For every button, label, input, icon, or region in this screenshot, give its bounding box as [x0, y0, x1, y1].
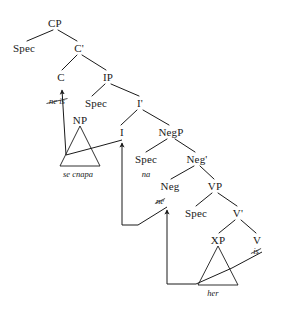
- tree-node-Ibar: I': [137, 98, 143, 109]
- NP-triangle: [60, 126, 100, 166]
- tree-branch-Vbar-XP: [219, 220, 235, 233]
- lexical-item-se-cnapa: se cnapa: [63, 170, 93, 179]
- lexical-item-na: na: [142, 170, 151, 179]
- tree-node-C: C: [57, 72, 65, 83]
- tree-node-Neg: Neg: [161, 181, 180, 192]
- tree-branch-IP-Ibar: [111, 84, 139, 96]
- lexical-item-her: her: [207, 289, 218, 298]
- tree-branch-IP-SpecIP: [92, 84, 105, 96]
- tree-branch-VP-Vbar: [218, 193, 237, 206]
- tree-node-SpecVP: Spec: [185, 208, 207, 219]
- tree-node-SpecIP: Spec: [85, 98, 107, 109]
- tree-branch-Negbar-VP: [200, 166, 214, 179]
- tree-node-Cbar: C': [74, 43, 84, 54]
- XP-triangle: [198, 246, 238, 285]
- tree-node-SpecCP: Spec: [13, 43, 35, 54]
- tree-node-NegP: NegP: [158, 127, 183, 138]
- tree-node-VP: VP: [208, 181, 222, 192]
- tree-node-V: V: [253, 235, 261, 246]
- tree-branch-Cbar-C: [62, 55, 77, 70]
- tree-branch-Vbar-V: [241, 220, 256, 233]
- tree-branch-VP-SpecVP: [196, 193, 212, 206]
- tree-node-Vbar: V': [233, 208, 243, 219]
- lexical-item-ne-is: ne is: [49, 97, 65, 106]
- tree-node-I: I: [120, 127, 124, 138]
- syntax-tree-figure: CPSpecC'CIPSpecI'NPINegPSpecNeg'NegVPSpe…: [0, 0, 281, 312]
- tree-branch-Cbar-IP: [82, 55, 106, 70]
- tree-branch-NegP-Negbar: [175, 139, 195, 152]
- tree-node-SpecNegP: Spec: [135, 154, 157, 165]
- tree-node-XP: XP: [211, 235, 225, 246]
- movement-arrow-V-to-Neg: [167, 210, 262, 284]
- tree-node-IP: IP: [103, 72, 113, 83]
- tree-branch-NegP-SpecNegP: [146, 139, 167, 152]
- branch-layer: [27, 30, 256, 233]
- tree-branch-CP-SpecCP: [27, 30, 53, 41]
- tree-branch-CP-Cbar: [58, 30, 77, 41]
- lexical-item-is: is: [253, 247, 259, 256]
- tree-node-NP: NP: [73, 115, 87, 126]
- tree-branch-Ibar-I: [121, 110, 137, 125]
- tree-node-Negbar: Neg': [186, 154, 207, 165]
- tree-branch-Negbar-Neg: [171, 166, 194, 179]
- tree-node-CP: CP: [48, 18, 62, 29]
- lexical-item-ne: ne: [156, 197, 164, 206]
- tree-branch-Ibar-NegP: [143, 110, 169, 125]
